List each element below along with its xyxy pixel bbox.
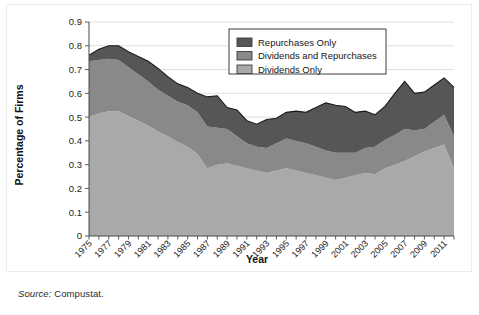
y-tick-label: 0.7 — [69, 64, 82, 75]
chart-legend: Repurchases OnlyDividends and Repurchase… — [229, 29, 386, 75]
x-tick-label: 1981 — [132, 238, 153, 259]
x-tick-label: 1997 — [290, 238, 311, 259]
x-tick-label: 1979 — [112, 238, 133, 259]
y-tick-label: 0.6 — [69, 88, 82, 99]
stacked-area-chart: 00.10.20.30.40.50.60.70.80.9 19751977197… — [7, 5, 471, 271]
y-tick-labels-group: 00.10.20.30.40.50.60.70.80.9 — [69, 16, 89, 241]
x-tick-label: 2011 — [428, 238, 449, 259]
legend-swatch — [237, 38, 252, 47]
y-tick-label: 0.5 — [69, 112, 82, 123]
y-tick-label: 0.8 — [69, 40, 82, 51]
x-tick-label: 2007 — [388, 238, 409, 259]
y-tick-label: 0.1 — [69, 207, 82, 218]
x-axis-title: Year — [246, 253, 268, 265]
y-tick-label: 0 — [77, 230, 82, 241]
y-tick-label: 0.3 — [69, 159, 82, 170]
x-tick-label: 1983 — [152, 238, 173, 259]
chart-figure-frame: 00.10.20.30.40.50.60.70.80.9 19751977197… — [6, 4, 472, 272]
y-tick-label: 0.2 — [69, 183, 82, 194]
source-value: Compustat. — [51, 288, 103, 299]
x-tick-label: 1995 — [270, 238, 291, 259]
x-tick-label: 1975 — [73, 238, 94, 259]
x-tick-label: 1999 — [309, 238, 330, 259]
legend-label: Dividends and Repurchases — [258, 50, 377, 61]
legend-label: Dividends Only — [258, 64, 322, 75]
x-tick-label: 2003 — [349, 238, 370, 259]
source-note: Source: Compustat. — [18, 288, 104, 299]
y-tick-label: 0.9 — [69, 16, 82, 27]
figure-page: 00.10.20.30.40.50.60.70.80.9 19751977197… — [0, 0, 479, 315]
x-tick-label: 1985 — [171, 238, 192, 259]
legend-swatch — [237, 65, 252, 74]
legend-swatch — [237, 52, 252, 61]
x-tick-label: 2005 — [369, 238, 390, 259]
y-axis-title: Percentage of Firms — [13, 84, 25, 185]
y-tick-label: 0.4 — [69, 135, 82, 146]
x-tick-label: 2009 — [408, 238, 429, 259]
legend-label: Repurchases Only — [258, 37, 336, 48]
x-tick-label: 1987 — [191, 238, 212, 259]
x-tick-label: 1989 — [211, 238, 232, 259]
source-label: Source: — [18, 288, 51, 299]
x-tick-label: 2001 — [329, 238, 350, 259]
x-tick-label: 1977 — [92, 238, 113, 259]
